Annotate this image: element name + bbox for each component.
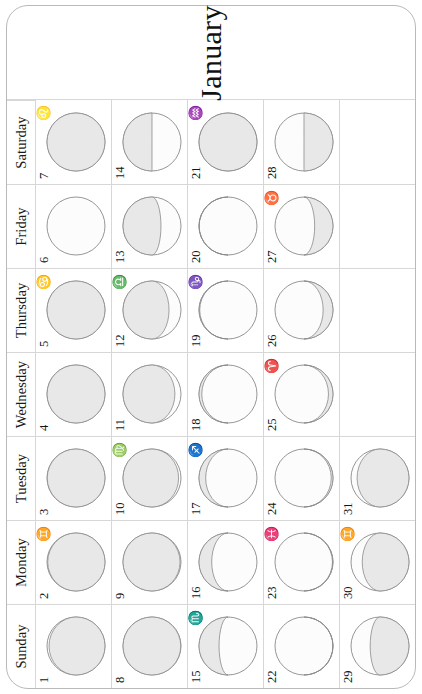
- day-cell[interactable]: 6: [35, 184, 111, 268]
- day-cell[interactable]: 29: [339, 604, 415, 688]
- calendar-grid: SundayMondayTuesdayWednesdayThursdayFrid…: [7, 100, 415, 688]
- moon-phase-waning-gibbous: [273, 616, 335, 678]
- zodiac-taurus-icon: ♉: [265, 190, 278, 206]
- weekday-header-saturday: Saturday: [7, 100, 35, 184]
- zodiac-gemini-icon: ♊: [37, 526, 50, 542]
- day-cell[interactable]: 18: [187, 352, 263, 436]
- day-number: 31: [342, 503, 355, 516]
- day-number: 25: [266, 419, 279, 432]
- moon-phase-waning-gibbous: [273, 196, 335, 258]
- day-number: 29: [342, 671, 355, 684]
- day-cell[interactable]: 27♉: [263, 184, 339, 268]
- day-cell[interactable]: 12♎: [111, 268, 187, 352]
- weekday-header-tuesday: Tuesday: [7, 436, 35, 520]
- zodiac-scorpio-icon: ♏: [189, 610, 202, 626]
- day-number: 18: [190, 419, 203, 432]
- day-number: 23: [266, 587, 279, 600]
- zodiac-capricorn-icon: ♑: [189, 274, 202, 290]
- day-cell[interactable]: 13: [111, 184, 187, 268]
- weekday-header-thursday: Thursday: [7, 268, 35, 352]
- day-cell[interactable]: 8: [111, 604, 187, 688]
- day-cell[interactable]: 26: [263, 268, 339, 352]
- moon-phase-waning-crescent: [349, 616, 411, 678]
- zodiac-sagittarius-icon: ♐: [189, 442, 202, 458]
- day-cell[interactable]: 3: [35, 436, 111, 520]
- day-number: 28: [266, 167, 279, 180]
- moon-phase-waning-crescent: [45, 616, 107, 678]
- day-cell[interactable]: 17♐: [187, 436, 263, 520]
- day-cell[interactable]: 4: [35, 352, 111, 436]
- moon-phase-full-moon: [197, 111, 259, 173]
- moon-phase-waxing-gibbous: [197, 532, 259, 594]
- day-cell[interactable]: 21♒: [187, 100, 263, 184]
- zodiac-virgo-icon: ♍: [113, 442, 126, 458]
- moon-phase-new-moon: [45, 196, 107, 258]
- day-cell[interactable]: 14: [111, 100, 187, 184]
- day-number: 4: [38, 425, 51, 431]
- moon-phase-waning-gibbous: [273, 364, 335, 426]
- moon-phase-waxing-crescent: [121, 532, 183, 594]
- moon-phase-waxing-gibbous: [197, 448, 259, 510]
- day-number: 16: [190, 587, 203, 600]
- day-cell[interactable]: 16: [187, 520, 263, 604]
- day-cell[interactable]: 7♌: [35, 100, 111, 184]
- zodiac-aries-icon: ♈: [265, 358, 278, 374]
- moon-phase-waning-gibbous: [273, 532, 335, 594]
- moon-phase-calendar: SundayMondayTuesdayWednesdayThursdayFrid…: [0, 0, 422, 694]
- day-cell[interactable]: 19♑: [187, 268, 263, 352]
- day-number: 15: [190, 671, 203, 684]
- zodiac-cancer-icon: ♋: [37, 274, 50, 290]
- zodiac-gemini-icon: ♊: [341, 526, 354, 542]
- day-cell[interactable]: 30♊: [339, 520, 415, 604]
- moon-phase-new-moon: [45, 280, 107, 342]
- day-number: 17: [190, 503, 203, 516]
- day-number: 1: [38, 677, 51, 683]
- day-number: 14: [114, 167, 127, 180]
- moon-phase-waxing-crescent: [121, 196, 183, 258]
- day-number: 3: [38, 509, 51, 515]
- day-cell[interactable]: 1: [35, 604, 111, 688]
- page-title: January: [194, 5, 228, 100]
- zodiac-leo-icon: ♌: [37, 105, 50, 121]
- day-number: 21: [190, 167, 203, 180]
- day-number: 13: [114, 251, 127, 264]
- moon-phase-waning-crescent: [349, 532, 411, 594]
- day-cell[interactable]: 15♏: [187, 604, 263, 688]
- moon-phase-waning-crescent: [45, 448, 107, 510]
- day-cell-empty: [339, 268, 415, 352]
- day-cell[interactable]: 25♈: [263, 352, 339, 436]
- day-cell[interactable]: 28: [263, 100, 339, 184]
- day-cell-empty: [339, 100, 415, 184]
- day-cell[interactable]: 20: [187, 184, 263, 268]
- weekday-header-wednesday: Wednesday: [7, 352, 35, 436]
- moon-phase-new-moon: [45, 111, 107, 173]
- month-panel: January: [7, 6, 415, 100]
- day-number: 10: [114, 503, 127, 516]
- day-cell[interactable]: 10♍: [111, 436, 187, 520]
- moon-phase-waxing-crescent: [121, 448, 183, 510]
- zodiac-aquarius-icon: ♒: [189, 105, 202, 121]
- moon-phase-waxing-crescent: [121, 616, 183, 678]
- day-number: 22: [266, 671, 279, 684]
- day-number: 30: [342, 587, 355, 600]
- day-number: 24: [266, 503, 279, 516]
- day-cell[interactable]: 5♋: [35, 268, 111, 352]
- day-cell[interactable]: 31: [339, 436, 415, 520]
- day-cell[interactable]: 9: [111, 520, 187, 604]
- day-cell[interactable]: 24: [263, 436, 339, 520]
- weekday-header-sunday: Sunday: [7, 604, 35, 688]
- day-number: 27: [266, 251, 279, 264]
- day-cell[interactable]: 11: [111, 352, 187, 436]
- weekday-header-monday: Monday: [7, 520, 35, 604]
- day-cell-empty: [339, 184, 415, 268]
- day-cell[interactable]: 2♊: [35, 520, 111, 604]
- moon-phase-first-quarter: [121, 111, 183, 173]
- moon-phase-last-quarter: [273, 111, 335, 173]
- weekday-header-friday: Friday: [7, 184, 35, 268]
- zodiac-libra-icon: ♎: [113, 274, 126, 290]
- moon-phase-new-moon: [45, 364, 107, 426]
- day-cell[interactable]: 23♓: [263, 520, 339, 604]
- day-cell[interactable]: 22: [263, 604, 339, 688]
- day-number: 2: [38, 593, 51, 599]
- day-number: 9: [114, 593, 127, 599]
